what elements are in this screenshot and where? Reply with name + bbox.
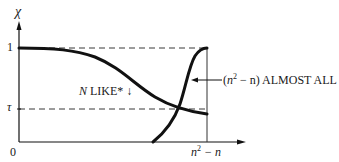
almost-all-rest: − n) ALMOST ALL — [237, 73, 337, 87]
n-like-text: LIKE* ↓ — [87, 84, 132, 98]
x-origin-label: 0 — [10, 145, 16, 160]
n-like-italic: N — [79, 84, 87, 98]
y-axis-label: χ — [15, 4, 21, 20]
y-axis-arrow-icon — [17, 21, 22, 30]
x-axis-arrow-icon — [237, 140, 246, 145]
curve-almost-all — [153, 48, 207, 142]
y-tick-one: 1 — [7, 40, 13, 55]
x-tick-end-label: n2 − n — [191, 144, 221, 160]
curve-n-like-label: N LIKE* ↓ — [79, 84, 132, 99]
annotation-arrow-icon — [191, 78, 198, 83]
y-tick-tau: τ — [7, 100, 11, 115]
x-tick-rest: − n — [201, 145, 221, 159]
curve-almost-all-label: (n2 − n) ALMOST ALL — [223, 72, 337, 88]
